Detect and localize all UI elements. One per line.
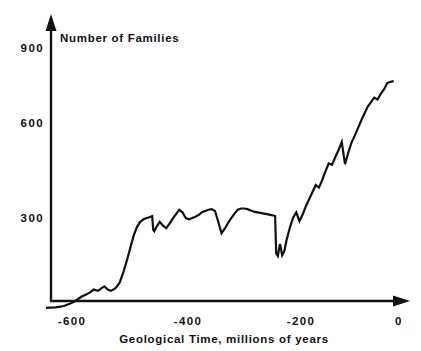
horizontal-axis <box>50 296 410 307</box>
data-series-line <box>46 81 394 308</box>
y-tick-label-600: 600 <box>21 117 44 129</box>
x-tick-label-minus200: -200 <box>287 315 316 327</box>
vertical-axis <box>46 14 57 302</box>
arrow-up-icon <box>46 14 57 31</box>
x-tick-label-minus600: -600 <box>58 315 87 327</box>
y-tick-label-300: 300 <box>21 212 44 224</box>
x-axis-title: Geological Time, millions of years <box>119 333 329 345</box>
chart-container: 900 600 300 -600 -400 -200 0 Number of F… <box>0 0 421 351</box>
arrow-right-icon <box>393 296 410 307</box>
x-tick-label-zero: 0 <box>395 315 403 327</box>
x-tick-label-minus400: -400 <box>174 315 203 327</box>
families-vs-time-line-chart: 900 600 300 -600 -400 -200 0 Number of F… <box>0 0 421 351</box>
y-tick-label-900: 900 <box>21 42 44 54</box>
chart-title: Number of Families <box>60 32 179 44</box>
